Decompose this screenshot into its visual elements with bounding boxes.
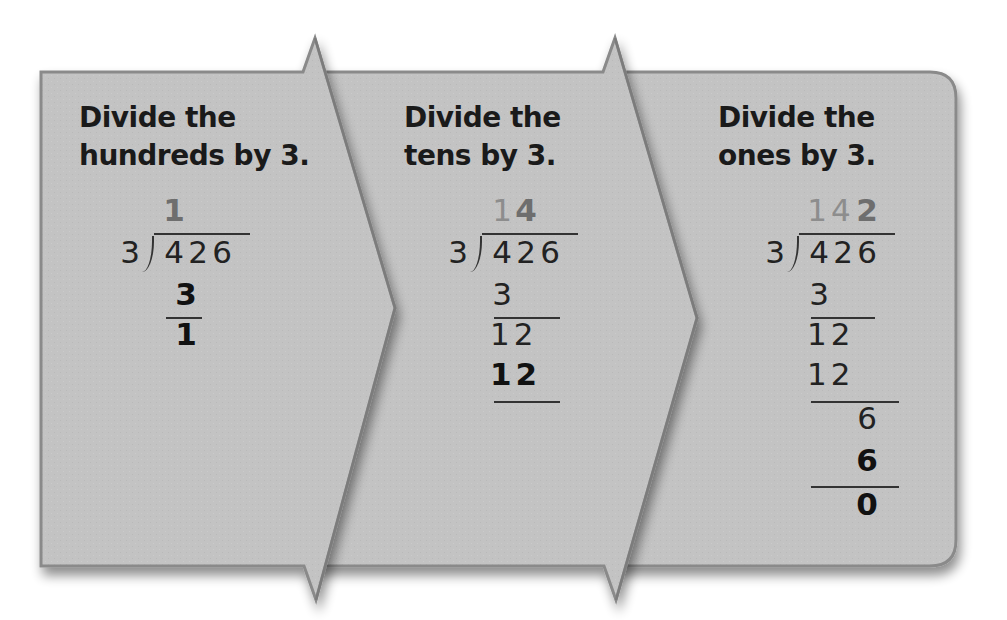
step-2-heading: Divide the tens by 3. (404, 99, 561, 175)
work-line: 12 (490, 354, 541, 394)
quotient: 14 (490, 190, 538, 230)
work-value: 12 (807, 316, 854, 352)
dividend-digit: 4 (807, 232, 831, 272)
dividend: 426 (162, 232, 234, 272)
work-line: 6 (855, 440, 879, 480)
dividend-digit: 6 (538, 232, 562, 272)
dividend-digit: 4 (490, 232, 514, 272)
step-3-heading-line1: Divide the (718, 99, 876, 137)
work-value: 1 (174, 314, 198, 354)
work-line: 6 (855, 398, 879, 438)
division-steps-diagram: Divide the hundreds by 3. 1 3 426 3 1 Di… (0, 0, 1007, 620)
dividend-digit: 4 (162, 232, 186, 272)
work-value: 12 (490, 316, 537, 352)
dividend-row: 3 (446, 232, 470, 272)
quotient: 142 (807, 190, 879, 230)
dividend-digit: 2 (831, 232, 855, 272)
dividend-row: 3 (118, 232, 142, 272)
subtraction-rule (494, 401, 560, 403)
step-3-heading-line2: ones by 3. (718, 137, 876, 175)
quotient: 1 (162, 190, 186, 230)
quotient-new-digit: 1 (162, 190, 186, 230)
work-line: 12 (807, 314, 854, 354)
dividend: 426 (490, 232, 562, 272)
divisor: 3 (118, 232, 142, 272)
work-line: 12 (490, 314, 537, 354)
step-1-heading-line2: hundreds by 3. (79, 137, 309, 175)
quotient-previous-digits: 14 (807, 190, 855, 230)
work-line: 12 (807, 354, 854, 394)
work-value: 6 (855, 440, 879, 480)
quotient-previous-digits: 1 (490, 190, 514, 230)
quotient-new-digit: 2 (855, 190, 879, 230)
dividend-digit: 2 (514, 232, 538, 272)
work-line: 0 (855, 484, 879, 524)
divisor: 3 (446, 232, 470, 272)
step-1-heading: Divide the hundreds by 3. (79, 99, 309, 175)
step-3-heading: Divide the ones by 3. (718, 99, 876, 175)
dividend-digit: 2 (186, 232, 210, 272)
work-line: 1 (174, 314, 198, 354)
work-value: 6 (855, 398, 879, 438)
work-value: 12 (490, 356, 541, 392)
work-value: 0 (855, 484, 879, 524)
dividend-digit: 6 (855, 232, 879, 272)
divisor: 3 (763, 232, 787, 272)
quotient-new-digit: 4 (514, 190, 538, 230)
work-line: 3 (174, 274, 198, 314)
work-value: 3 (807, 274, 831, 314)
work-value: 3 (174, 274, 198, 314)
dividend-digit: 6 (210, 232, 234, 272)
work-value: 12 (807, 356, 854, 392)
step-2-heading-line1: Divide the (404, 99, 561, 137)
step-1-heading-line1: Divide the (79, 99, 309, 137)
work-line: 3 (807, 274, 831, 314)
dividend: 426 (807, 232, 879, 272)
work-line: 3 (490, 274, 514, 314)
work-value: 3 (490, 274, 514, 314)
step-2-heading-line2: tens by 3. (404, 137, 561, 175)
dividend-row: 3 (763, 232, 787, 272)
